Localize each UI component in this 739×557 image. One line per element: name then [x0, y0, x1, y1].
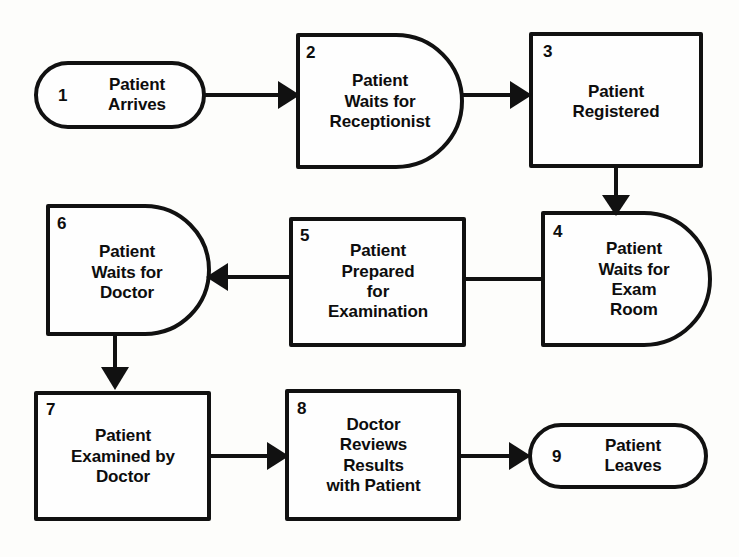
edge-8-9-arrowhead: [509, 442, 531, 470]
flowchart-canvas: 1 Patient Arrives 2 Patient Waits for Re…: [0, 0, 739, 557]
node-3-shape[interactable]: [531, 34, 701, 166]
node-1-shape[interactable]: [36, 63, 204, 127]
node-4-shape[interactable]: [543, 213, 710, 345]
edge-2-3-arrowhead: [510, 81, 532, 109]
node-9-shape[interactable]: [530, 425, 706, 487]
node-2-shape[interactable]: [298, 35, 462, 167]
node-6-shape[interactable]: [48, 206, 209, 334]
node-8-shape[interactable]: [287, 391, 459, 519]
flowchart-graphics: [0, 0, 739, 557]
node-5-shape[interactable]: [291, 219, 464, 345]
edge-6-7-arrowhead: [101, 367, 129, 390]
node-7-shape[interactable]: [36, 393, 209, 519]
